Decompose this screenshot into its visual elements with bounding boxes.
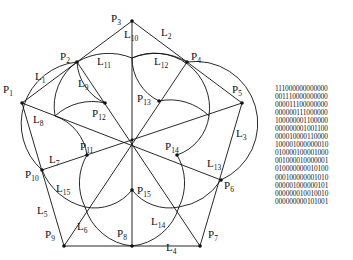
arc-right <box>159 100 209 116</box>
line-l6-spoke <box>64 62 187 246</box>
point-p1 <box>20 101 24 105</box>
point-label-p8: P8 <box>117 227 127 242</box>
point-p7 <box>198 244 202 248</box>
line-label-l9: L9 <box>78 77 89 92</box>
point-p10 <box>40 168 44 172</box>
point-label-p3: P3 <box>111 12 121 27</box>
point-label-p11: P11 <box>80 140 94 155</box>
point-label-p6: P6 <box>224 179 234 194</box>
arc-p11 <box>79 155 87 207</box>
arc-p14 <box>177 116 209 155</box>
point-label-p12: P12 <box>92 107 106 122</box>
line-label-l13: L13 <box>207 157 221 172</box>
point-label-p14: P14 <box>165 140 179 155</box>
point-p9 <box>62 244 66 248</box>
matrix-row: 000000000101001 <box>275 198 353 206</box>
line-label-l6: L6 <box>77 220 88 235</box>
arc-right-low <box>179 180 221 207</box>
line-l8 <box>22 103 221 180</box>
point-p3 <box>130 19 134 23</box>
point-p4 <box>185 60 189 64</box>
point-label-p9: P9 <box>45 228 55 243</box>
point-p2 <box>75 60 79 64</box>
point-p13 <box>157 99 161 103</box>
line-label-l11: L11 <box>97 55 111 70</box>
incidence-matrix: 1110000000000000011100000000000000111000… <box>275 85 353 206</box>
line-label-l2: L2 <box>161 26 172 41</box>
line-label-l15: L15 <box>56 182 70 197</box>
point-p15 <box>130 188 134 192</box>
line-label-l14: L14 <box>151 215 165 230</box>
arc-p14-down <box>177 155 185 207</box>
line-label-l12: L12 <box>154 55 168 70</box>
point-p12 <box>103 101 107 105</box>
line-label-l4: L4 <box>166 241 177 256</box>
center-point <box>131 139 134 142</box>
arc-l13 <box>187 61 258 180</box>
line-l9-spoke <box>77 62 200 246</box>
diagram-lines <box>21 21 258 246</box>
line-label-l3: L3 <box>236 127 247 142</box>
arc-p15-left <box>85 190 132 208</box>
line-label-l5: L5 <box>37 204 48 219</box>
point-label-p2: P2 <box>60 50 70 65</box>
point-p5 <box>240 101 244 105</box>
line-label-l8: L8 <box>33 113 44 128</box>
point-label-p1: P1 <box>3 83 13 98</box>
line-label-l10: L10 <box>124 28 138 43</box>
point-label-p4: P4 <box>191 50 201 65</box>
point-label-p5: P5 <box>232 83 242 98</box>
point-label-p10: P10 <box>25 168 39 183</box>
point-label-p7: P7 <box>208 228 218 243</box>
pentagon-circle-diagram: P1P2P3P4P5P6P7P8P9P10P11P12P13P14P15 L1L… <box>0 0 270 260</box>
point-p6 <box>219 178 223 182</box>
point-p8 <box>130 244 134 248</box>
